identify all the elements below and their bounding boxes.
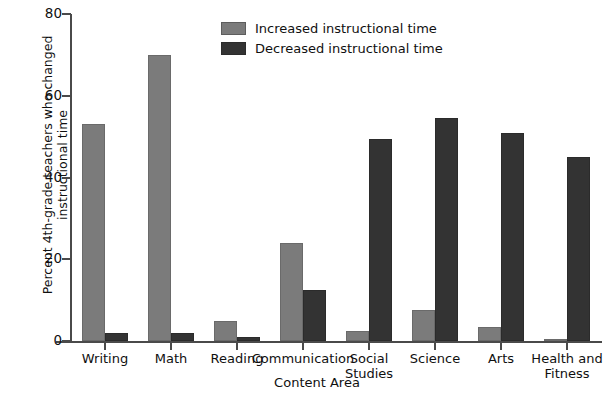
bar-group xyxy=(82,14,128,341)
bar-decreased xyxy=(501,133,524,341)
bar-decreased xyxy=(303,290,326,341)
bar-group xyxy=(412,14,458,341)
y-tick-label: 60 xyxy=(0,89,62,103)
bar-group xyxy=(544,14,590,341)
bar-group xyxy=(214,14,260,341)
x-tick-mark xyxy=(170,341,172,350)
bar-increased xyxy=(280,243,303,341)
bar-group xyxy=(478,14,524,341)
x-axis-title: Content Area xyxy=(0,375,602,390)
y-tick-label: 0 xyxy=(0,334,62,348)
legend-label: Increased instructional time xyxy=(255,22,437,35)
y-tick-mark xyxy=(62,95,71,97)
x-tick-mark xyxy=(236,341,238,350)
x-tick-mark xyxy=(566,341,568,350)
bar-decreased xyxy=(369,139,392,341)
x-category-label-line: Health and xyxy=(507,352,607,367)
chart-legend: Increased instructional timeDecreased in… xyxy=(221,22,443,62)
legend-swatch-dark xyxy=(221,42,246,55)
bar-increased xyxy=(148,55,171,341)
bar-increased xyxy=(346,331,369,341)
y-tick-mark xyxy=(62,340,71,342)
bar-decreased xyxy=(105,333,128,341)
bar-decreased xyxy=(567,157,590,341)
y-tick-label: 80 xyxy=(0,7,62,21)
bar-decreased xyxy=(171,333,194,341)
y-axis-title: Percent 4th-grade teachers who changed i… xyxy=(40,15,70,315)
x-tick-mark xyxy=(104,341,106,350)
bar-increased xyxy=(214,321,237,341)
bar-group xyxy=(148,14,194,341)
legend-item: Decreased instructional time xyxy=(221,42,443,55)
bar-group xyxy=(280,14,326,341)
bar-increased xyxy=(82,124,105,341)
bar-decreased xyxy=(435,118,458,341)
y-axis-title-line-2: instructional time xyxy=(55,15,70,315)
y-tick-label: 40 xyxy=(0,171,62,185)
bar-decreased xyxy=(237,337,260,341)
y-tick-mark xyxy=(62,13,71,15)
x-tick-mark xyxy=(368,341,370,350)
y-tick-mark xyxy=(62,258,71,260)
x-tick-mark xyxy=(302,341,304,350)
y-tick-label: 20 xyxy=(0,252,62,266)
legend-swatch-light xyxy=(221,22,246,35)
x-tick-mark xyxy=(434,341,436,350)
y-tick-mark xyxy=(62,177,71,179)
bar-increased xyxy=(412,310,435,341)
legend-item: Increased instructional time xyxy=(221,22,443,35)
bar-group xyxy=(346,14,392,341)
x-axis-line xyxy=(56,341,602,343)
x-tick-mark xyxy=(500,341,502,350)
y-axis-title-line-1: Percent 4th-grade teachers who changed xyxy=(40,15,55,315)
legend-label: Decreased instructional time xyxy=(255,42,443,55)
plot-area xyxy=(72,14,600,341)
bar-increased xyxy=(478,327,501,341)
bar-increased xyxy=(544,339,567,341)
